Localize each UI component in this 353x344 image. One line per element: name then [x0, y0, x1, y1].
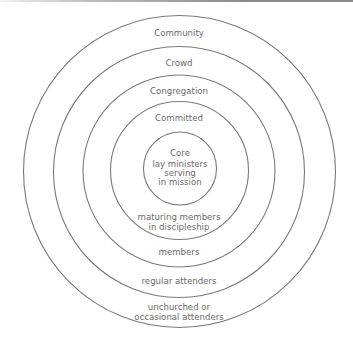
- label-core-title: Core: [170, 148, 190, 158]
- label-members: members: [159, 247, 200, 257]
- label-core-line2: lay ministers: [152, 159, 208, 169]
- label-unchurched-or: unchurched or: [148, 302, 211, 312]
- concentric-circles-diagram: Community Crowd Congregation Committed C…: [0, 0, 353, 344]
- label-core-line4: in mission: [158, 177, 201, 187]
- label-occasional-attenders: occasional attenders: [134, 312, 224, 322]
- label-crowd: Crowd: [165, 58, 192, 68]
- label-congregation: Congregation: [150, 86, 208, 96]
- label-regular-attenders: regular attenders: [142, 276, 217, 286]
- label-in-discipleship: in discipleship: [149, 222, 210, 232]
- label-maturing-members: maturing members: [138, 212, 221, 222]
- label-community: Community: [154, 28, 204, 38]
- label-committed: Committed: [155, 113, 203, 123]
